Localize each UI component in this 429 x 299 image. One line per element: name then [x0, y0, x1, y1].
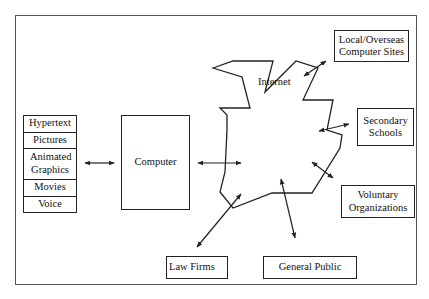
node-general-public: General Public [263, 256, 357, 279]
node-law-firms: Law Firms [166, 256, 228, 279]
arrow-internet-law-firms [197, 194, 241, 247]
media-stack: Hypertext Pictures Animated Graphics Mov… [23, 115, 77, 213]
node-law-firms-label: Law Firms [169, 261, 215, 274]
computer-box: Computer [121, 115, 190, 210]
media-item-pictures: Pictures [24, 133, 76, 150]
node-voluntary-organizations: Voluntary Organizations [341, 185, 415, 218]
node-voluntary-organizations-label: Voluntary Organizations [344, 189, 412, 214]
media-item-voice: Voice [24, 197, 76, 213]
internet-label: Internet [258, 76, 291, 87]
computer-label: Computer [135, 156, 177, 169]
media-item-hypertext: Hypertext [24, 116, 76, 133]
node-secondary-schools-label: Secondary Schools [362, 115, 409, 140]
media-item-movies: Movies [24, 180, 76, 197]
node-general-public-label: General Public [279, 261, 342, 274]
media-item-animated-graphics: Animated Graphics [24, 149, 76, 180]
node-secondary-schools: Secondary Schools [357, 108, 414, 146]
node-local-overseas-label: Local/Overseas Computer Sites [338, 34, 405, 59]
node-local-overseas: Local/Overseas Computer Sites [334, 30, 409, 62]
